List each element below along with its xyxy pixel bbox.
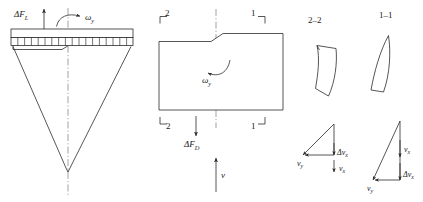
airfoil-label-1-1: 1–1 (379, 10, 393, 20)
panel-airfoil-section-labels: 2–2 1–1 (308, 10, 393, 25)
label-vy-left: vy (297, 159, 304, 169)
section-marker-top-right (258, 17, 265, 24)
hub-ledge (13, 46, 68, 50)
drag-force-label: ΔFD (183, 139, 200, 151)
section-label-top-right: 1 (251, 8, 256, 18)
disc-cone-body-right (70, 47, 131, 169)
label-delta-vx-left: Δvx (336, 148, 348, 158)
velocity-triangle-right-hypotenuse (373, 121, 400, 180)
panel-airfoil-sections (316, 36, 390, 97)
velocity-triangle-right (373, 121, 400, 180)
airfoil-label-2-2: 2–2 (308, 15, 322, 25)
blade-planform-outline (159, 34, 283, 111)
panel-bladed-disc (11, 8, 133, 196)
disc-upper-band (11, 29, 133, 38)
velocity-triangle-left-labels: Δvx vx vy (297, 148, 348, 174)
label-vy-right: vy (367, 184, 374, 194)
label-delta-vx-right: Δvx (402, 170, 414, 180)
panel-bladed-disc-labels: ΔFL ωy (13, 9, 94, 24)
disc-cone-body (13, 47, 66, 169)
section-marker-bottom-right (258, 117, 265, 124)
label-vx-right: vx (404, 145, 411, 155)
section-label-bottom-left: 2 (166, 121, 171, 131)
velocity-triangle-left (303, 124, 334, 172)
airfoil-profile-1-1 (371, 36, 390, 93)
velocity-triangle-left-hypotenuse (303, 124, 334, 155)
angular-velocity-label-left: ωy (85, 12, 94, 24)
engineering-diagram-root: ΔFL ωy 2 1 2 1 ωy ΔFD (0, 0, 423, 202)
panel-blade-plan (159, 9, 283, 192)
section-label-top-left: 2 (165, 8, 170, 18)
free-stream-velocity-label: v (221, 170, 225, 180)
label-vx-left: vx (339, 164, 346, 174)
airfoil-profile-2-2 (316, 46, 337, 97)
velocity-triangle-right-labels: vx Δvx vy (367, 145, 414, 194)
section-label-bottom-right: 1 (251, 121, 256, 131)
lift-force-label: ΔFL (13, 9, 29, 21)
